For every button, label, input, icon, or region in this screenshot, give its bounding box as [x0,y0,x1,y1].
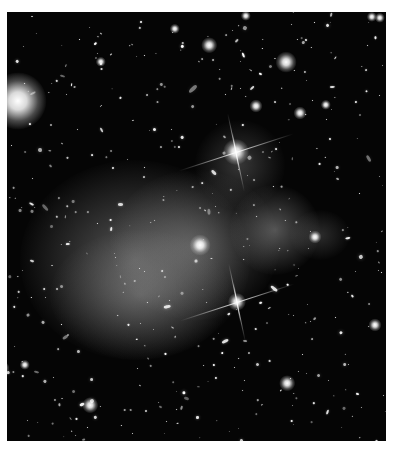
faint-galaxy [375,36,377,39]
faint-galaxy [140,20,143,23]
faint-galaxy [51,265,54,267]
faint-galaxy [268,64,272,68]
faint-galaxy [19,209,22,212]
faint-galaxy [310,338,313,341]
faint-galaxy [43,287,46,290]
faint-galaxy [152,127,156,131]
faint-galaxy [71,389,75,393]
faint-galaxy [244,380,245,381]
faint-galaxy [75,435,76,436]
bright-star-halo [170,24,180,34]
faint-galaxy [235,39,239,43]
faint-galaxy [281,186,283,188]
faint-galaxy [123,409,125,411]
faint-galaxy [384,411,385,412]
faint-galaxy [294,70,295,71]
faint-galaxy [319,163,321,165]
faint-galaxy [143,176,145,178]
faint-galaxy [326,119,327,120]
faint-galaxy [378,262,380,264]
faint-galaxy [206,301,208,303]
faint-galaxy [69,417,72,420]
faint-galaxy [338,330,343,335]
diffuse-glow [230,185,320,275]
faint-galaxy [305,39,308,42]
faint-galaxy [252,178,255,181]
faint-galaxy [164,433,165,434]
faint-galaxy [118,203,123,206]
faint-galaxy [56,80,58,82]
faint-galaxy [192,186,194,188]
faint-galaxy [229,431,230,432]
faint-galaxy [279,142,280,143]
faint-galaxy [130,409,132,411]
faint-galaxy [298,268,299,269]
faint-galaxy [22,270,23,271]
faint-galaxy [341,427,342,428]
faint-galaxy [347,292,349,294]
faint-galaxy [111,88,113,90]
faint-galaxy [159,295,161,297]
faint-galaxy [58,197,60,199]
faint-galaxy [174,335,177,338]
faint-galaxy [202,289,204,291]
faint-galaxy [110,53,112,55]
faint-galaxy [61,244,62,245]
faint-galaxy [257,399,259,401]
bright-star-halo [375,13,385,23]
faint-galaxy [101,68,103,70]
faint-galaxy [150,365,152,367]
faint-galaxy [261,404,263,406]
faint-galaxy [18,291,20,293]
faint-galaxy [8,274,12,278]
faint-galaxy [213,337,215,339]
faint-galaxy [144,55,145,56]
faint-galaxy [212,59,214,61]
faint-galaxy [64,215,66,218]
faint-galaxy [382,185,383,186]
faint-galaxy [50,124,52,126]
faint-galaxy [29,259,33,262]
faint-galaxy [261,48,262,49]
faint-galaxy [115,265,117,267]
faint-galaxy [336,166,339,169]
faint-galaxy [216,420,218,422]
faint-galaxy [359,193,360,194]
faint-galaxy [262,151,264,153]
faint-galaxy [345,389,346,390]
faint-galaxy [348,364,350,365]
faint-galaxy [111,167,113,169]
faint-galaxy [127,158,129,160]
faint-galaxy [279,209,281,212]
faint-galaxy [48,92,50,94]
faint-galaxy [41,204,49,212]
faint-galaxy [242,390,244,392]
faint-galaxy [188,84,198,94]
faint-galaxy [234,366,235,367]
faint-galaxy [45,297,46,298]
faint-galaxy [307,303,308,304]
faint-galaxy [368,303,370,305]
faint-galaxy [176,409,177,410]
faint-galaxy [330,109,331,110]
faint-galaxy [160,146,163,149]
faint-galaxy [196,416,199,419]
faint-galaxy [295,396,298,399]
faint-galaxy [325,23,329,27]
faint-galaxy [293,424,294,425]
faint-galaxy [355,271,356,272]
faint-galaxy [177,423,179,424]
faint-galaxy [329,137,331,139]
faint-galaxy [239,439,242,441]
faint-galaxy [59,403,61,406]
faint-galaxy [13,306,16,309]
faint-galaxy [143,166,145,168]
faint-galaxy [13,186,15,188]
faint-galaxy [298,370,299,371]
faint-galaxy [129,225,130,226]
faint-galaxy [365,89,368,92]
faint-galaxy [36,33,37,34]
faint-galaxy [120,97,122,99]
galaxy-cluster-photo [7,12,386,441]
faint-galaxy [377,270,378,271]
